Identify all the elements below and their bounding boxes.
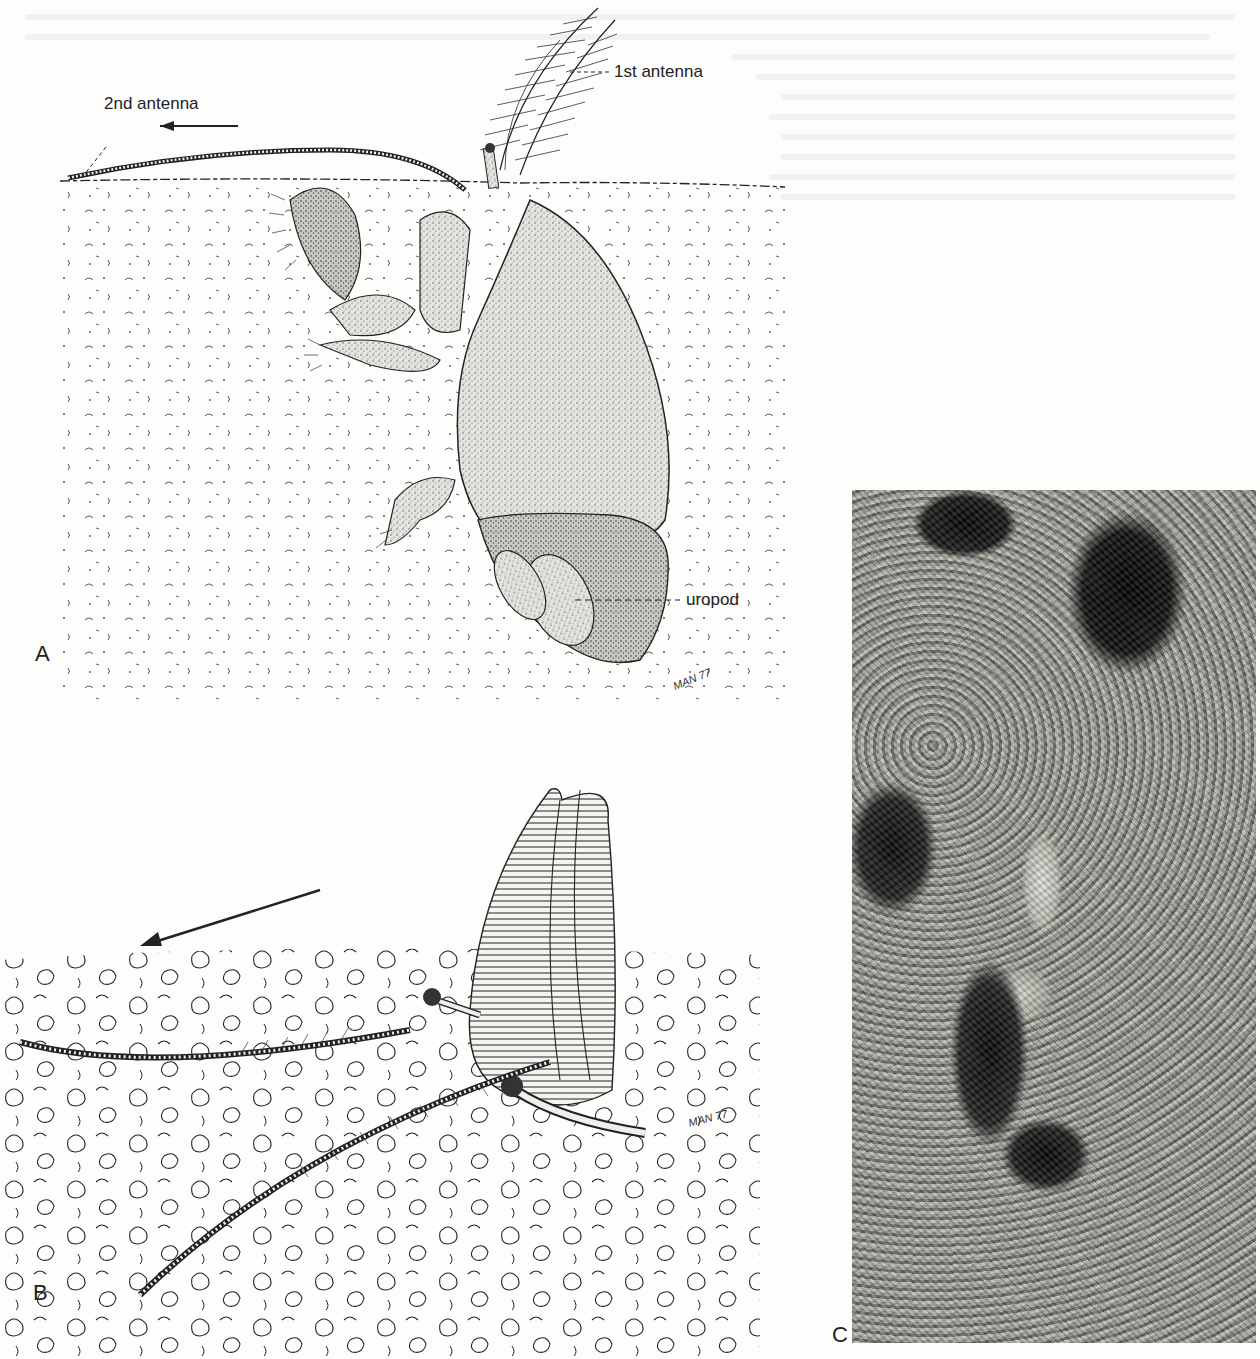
panel-b: MAN 77 B [0, 760, 800, 1359]
panel-a: 2nd antenna 1st antenna uropod MAN 77 A [0, 0, 820, 720]
panel-letter-a: A [35, 641, 50, 667]
label-second-antenna: 2nd antenna [104, 94, 199, 114]
panel-letter-c: C [832, 1322, 848, 1348]
feeding-antennae-illustration [0, 760, 800, 1359]
label-first-antenna: 1st antenna [614, 62, 703, 82]
burrowing-crab-photograph [852, 490, 1256, 1343]
panel-letter-b: B [33, 1280, 48, 1306]
figure-page: 2nd antenna 1st antenna uropod MAN 77 A [0, 0, 1260, 1359]
label-uropod: uropod [686, 590, 739, 610]
